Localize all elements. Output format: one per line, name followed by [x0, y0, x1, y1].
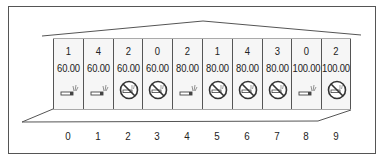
room-index-label: 3: [145, 130, 171, 142]
room-index-label: 5: [204, 130, 230, 142]
room-cell[interactable]: 2100.00: [321, 39, 351, 109]
room-price: 100.00: [322, 62, 350, 74]
room-count: 3: [265, 45, 289, 57]
room-cell[interactable]: 280.00: [172, 39, 202, 109]
room-index-label: 6: [234, 130, 260, 142]
room-cell[interactable]: 380.00: [262, 39, 292, 109]
room-index-label: 7: [264, 130, 290, 142]
room-price: 80.00: [263, 62, 292, 74]
no-smoking-icon: [268, 80, 288, 100]
room-price: 60.00: [114, 62, 143, 74]
room-index-label: 8: [294, 130, 320, 142]
smoking-icon: [178, 80, 198, 100]
room-cell[interactable]: 0100.00: [291, 39, 321, 109]
no-smoking-icon: [208, 80, 228, 100]
room-price: 60.00: [84, 62, 113, 74]
room-count: 0: [295, 45, 319, 57]
room-count: 2: [176, 45, 200, 57]
room-price: 80.00: [203, 62, 232, 74]
room-index-label: 4: [174, 130, 200, 142]
room-price: 60.00: [144, 62, 173, 74]
no-smoking-icon: [119, 80, 139, 100]
no-smoking-icon: [238, 80, 258, 100]
smoking-icon: [89, 80, 109, 100]
room-count: 2: [116, 45, 140, 57]
room-count: 1: [206, 45, 230, 57]
room-count: 0: [146, 45, 170, 57]
room-price: 60.00: [54, 62, 83, 74]
room-index-label: 0: [55, 130, 81, 142]
smoking-icon: [59, 80, 79, 100]
room-cell[interactable]: 480.00: [232, 39, 262, 109]
room-count: 2: [325, 45, 348, 57]
room-index-label: 2: [115, 130, 141, 142]
ceiling-line: [42, 21, 361, 36]
room-cell[interactable]: 060.00: [142, 39, 172, 109]
room-index-label: 1: [85, 130, 111, 142]
room-cell[interactable]: 180.00: [202, 39, 232, 109]
room-price: 100.00: [293, 62, 322, 74]
room-count: 4: [86, 45, 110, 57]
floor-line: [22, 109, 351, 122]
room-cell[interactable]: 160.00: [53, 39, 83, 109]
room-index-label: 9: [323, 130, 349, 142]
room-cell[interactable]: 260.00: [113, 39, 143, 109]
room-price: 80.00: [233, 62, 262, 74]
smoking-icon: [297, 80, 317, 100]
room-count: 1: [57, 45, 81, 57]
room-count: 4: [235, 45, 259, 57]
no-smoking-icon: [327, 80, 347, 100]
no-smoking-icon: [148, 80, 168, 100]
room-cell[interactable]: 460.00: [83, 39, 113, 109]
room-price: 80.00: [173, 62, 202, 74]
